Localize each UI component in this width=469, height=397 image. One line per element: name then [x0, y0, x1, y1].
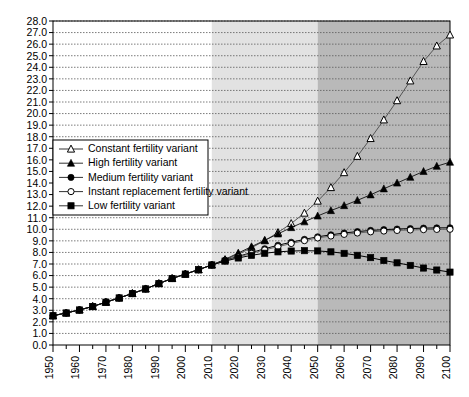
series-marker: [420, 265, 426, 271]
ytick-label: 21.0: [27, 96, 48, 108]
series-marker: [182, 271, 188, 277]
series-marker: [116, 295, 122, 301]
xtick-label: 2090: [414, 356, 426, 380]
ytick-label: 1.0: [32, 327, 47, 339]
series-marker: [368, 229, 374, 235]
ytick-label: 19.0: [27, 119, 48, 131]
ytick-label: 24.0: [27, 61, 48, 73]
ytick-label: 26.0: [27, 38, 48, 50]
ytick-label: 6.0: [32, 269, 47, 281]
series-marker: [407, 262, 413, 268]
series-marker: [407, 227, 413, 233]
series-marker: [143, 286, 149, 292]
ytick-label: 5.0: [32, 281, 47, 293]
series-marker: [381, 228, 387, 234]
ytick-label: 15.0: [27, 165, 48, 177]
series-marker: [394, 227, 400, 233]
ytick-label: 2.0: [32, 316, 47, 328]
xtick-label: 2000: [175, 356, 187, 380]
series-marker: [288, 248, 294, 254]
series-marker: [315, 248, 321, 254]
ytick-label: 22.0: [27, 84, 48, 96]
series-marker: [103, 299, 109, 305]
legend-marker-filled-square: [68, 203, 74, 209]
xtick-label: 1980: [122, 356, 134, 380]
series-marker: [90, 303, 96, 309]
series-marker: [275, 249, 281, 255]
series-marker: [129, 290, 135, 296]
series-marker: [169, 275, 175, 281]
ytick-label: 4.0: [32, 293, 47, 305]
xtick-label: 2030: [255, 356, 267, 380]
xtick-label: 1950: [43, 356, 55, 380]
series-marker: [288, 240, 294, 246]
series-marker: [301, 248, 307, 254]
series-marker: [341, 231, 347, 237]
series-marker: [222, 258, 228, 264]
series-marker: [50, 313, 56, 319]
series-marker: [315, 235, 321, 241]
xtick-label: 2080: [387, 356, 399, 380]
ytick-label: 17.0: [27, 142, 48, 154]
xtick-label: 2040: [281, 356, 293, 380]
xtick-label: 2050: [308, 356, 320, 380]
legend-label: Constant fertility variant: [88, 142, 198, 154]
ytick-label: 27.0: [27, 26, 48, 38]
series-marker: [328, 233, 334, 239]
ytick-label: 28.0: [27, 15, 48, 27]
series-marker: [195, 267, 201, 273]
xtick-label: 2020: [228, 356, 240, 380]
ytick-label: 12.0: [27, 200, 48, 212]
series-marker: [394, 260, 400, 266]
series-marker: [248, 252, 254, 258]
series-marker: [368, 255, 374, 261]
xtick-label: 1970: [96, 356, 108, 380]
xtick-label: 2010: [202, 356, 214, 380]
ytick-label: 7.0: [32, 258, 47, 270]
ytick-label: 13.0: [27, 188, 48, 200]
ytick-label: 10.0: [27, 223, 48, 235]
xtick-label: 1960: [69, 356, 81, 380]
legend-label: Low fertility variant: [88, 199, 175, 211]
series-marker: [354, 230, 360, 236]
series-marker: [434, 267, 440, 273]
population-projection-chart: 0.01.02.03.04.05.06.07.08.09.010.011.012…: [0, 0, 469, 397]
ytick-label: 14.0: [27, 177, 48, 189]
series-marker: [447, 269, 453, 275]
series-marker: [76, 307, 82, 313]
series-marker: [447, 226, 453, 232]
ytick-label: 16.0: [27, 154, 48, 166]
chart-canvas: 0.01.02.03.04.05.06.07.08.09.010.011.012…: [0, 0, 469, 397]
ytick-label: 0.0: [32, 339, 47, 351]
ytick-label: 3.0: [32, 304, 47, 316]
legend-label: Instant replacement fertility variant: [88, 185, 248, 197]
xtick-label: 2100: [440, 356, 452, 380]
series-marker: [235, 255, 241, 261]
series-marker: [209, 262, 215, 268]
series-marker: [381, 257, 387, 263]
ytick-label: 25.0: [27, 50, 48, 62]
series-marker: [354, 252, 360, 258]
xtick-label: 2060: [334, 356, 346, 380]
ytick-label: 18.0: [27, 131, 48, 143]
legend-marker-open-circle: [68, 189, 74, 195]
series-marker: [63, 310, 69, 316]
series-marker: [341, 250, 347, 256]
legend-marker-filled-circle: [68, 174, 74, 180]
ytick-label: 20.0: [27, 107, 48, 119]
ytick-label: 8.0: [32, 246, 47, 258]
series-marker: [420, 227, 426, 233]
series-marker: [262, 250, 268, 256]
xtick-label: 2070: [361, 356, 373, 380]
legend-label: High fertility variant: [88, 156, 177, 168]
series-marker: [156, 280, 162, 286]
legend-label: Medium fertility variant: [88, 171, 193, 183]
ytick-label: 23.0: [27, 73, 48, 85]
xtick-label: 1990: [149, 356, 161, 380]
series-marker: [301, 238, 307, 244]
ytick-label: 11.0: [27, 212, 47, 224]
series-marker: [434, 226, 440, 232]
ytick-label: 9.0: [32, 235, 47, 247]
series-marker: [328, 249, 334, 255]
